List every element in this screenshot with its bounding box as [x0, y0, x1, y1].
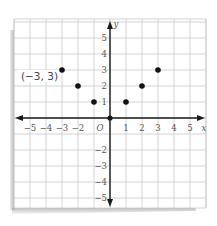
y-tick-label: 1 [102, 97, 107, 107]
y-tick-label: −3 [94, 161, 107, 171]
data-point [59, 67, 65, 73]
data-point [75, 83, 81, 89]
x-tick-label: −2 [72, 123, 85, 133]
x-tick-label: 4 [171, 123, 176, 133]
point-annotation-label: (−3, 3) [21, 70, 58, 82]
x-tick-label: 5 [187, 123, 192, 133]
x-tick-label: −4 [40, 123, 53, 133]
data-point [91, 99, 97, 105]
origin-dot [107, 115, 112, 120]
x-tick-label: −3 [56, 123, 69, 133]
data-point [155, 67, 161, 73]
x-tick-label: 1 [123, 123, 128, 133]
y-tick-label: 2 [102, 81, 107, 91]
origin-label: O [97, 123, 104, 133]
coordinate-plane: −5−4−3−21234554321−2−3−4−5Oxy (−3, 3) [0, 0, 217, 226]
y-tick-label: −5 [94, 193, 107, 203]
y-tick-label: 4 [102, 49, 107, 59]
data-point [123, 99, 129, 105]
y-tick-label: −2 [94, 145, 107, 155]
y-tick-label: 3 [102, 65, 107, 75]
y-tick-label: 5 [102, 33, 107, 43]
annotations: (−3, 3) [17, 70, 59, 82]
data-point [139, 83, 145, 89]
x-tick-label: −5 [24, 123, 37, 133]
y-tick-label: −4 [94, 177, 107, 187]
x-tick-label: 3 [155, 123, 160, 133]
x-tick-label: 2 [139, 123, 144, 133]
y-axis-label: y [113, 19, 119, 29]
x-axis-label: x [202, 123, 207, 133]
